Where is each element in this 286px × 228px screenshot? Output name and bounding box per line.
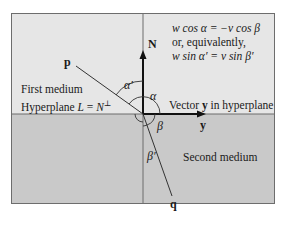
label-hyperplane: Hyperplane L = N⊥ — [21, 100, 111, 113]
right-angle-arc — [135, 114, 143, 122]
equation-line-2: or, equivalently, — [172, 35, 260, 49]
beta-prime-arc — [143, 125, 147, 126]
hyperplane-prefix: Hyperplane — [21, 101, 78, 113]
label-second-medium: Second medium — [183, 152, 257, 164]
normal-vector-arrow — [140, 50, 147, 114]
label-normal-n: N — [148, 38, 157, 50]
caption-suffix: in hyperplane — [208, 99, 274, 111]
hyperplane-N: N — [96, 101, 104, 113]
tangent-vector-arrow — [143, 111, 206, 118]
equation-line-3: w sin α′ = v sin β′ — [172, 49, 260, 63]
hyperplane-eq: = — [84, 101, 96, 113]
label-beta-prime: β′ — [147, 150, 156, 162]
hyperplane-perp: ⊥ — [104, 99, 112, 108]
label-alpha-prime: α′ — [124, 79, 133, 91]
label-beta: β — [157, 120, 163, 132]
label-vector-q: q — [170, 198, 177, 210]
beta-arc — [147, 114, 155, 125]
snell-equations: w cos α = −v cos β or, equivalently, w s… — [172, 21, 260, 63]
caption-prefix: Vector — [169, 99, 202, 111]
label-vector-y-caption: Vector y in hyperplane — [169, 100, 273, 112]
refraction-diagram: w cos α = −v cos β or, equivalently, w s… — [0, 0, 286, 228]
label-vector-y: y — [200, 119, 206, 131]
label-vector-p: p — [64, 56, 71, 68]
label-alpha: α — [150, 90, 156, 102]
label-first-medium: First medium — [21, 84, 83, 96]
equation-line-1: w cos α = −v cos β — [172, 21, 260, 35]
